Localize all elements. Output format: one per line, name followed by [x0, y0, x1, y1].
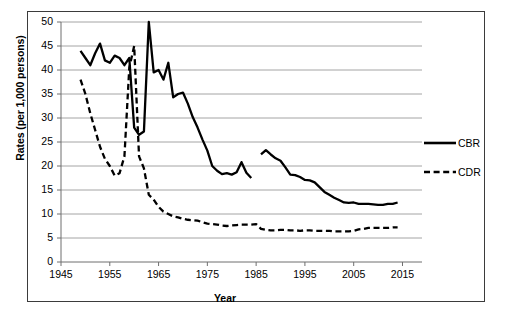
x-tick-1965: 1965 [136, 268, 182, 280]
gridlines [61, 22, 422, 262]
y-tick-30: 30 [23, 111, 53, 123]
y-tick-35: 35 [23, 87, 53, 99]
series-line-cbr [81, 22, 252, 178]
y-tick-50: 50 [23, 15, 53, 27]
x-tick-1945: 1945 [38, 268, 84, 280]
x-tick-2015: 2015 [379, 268, 425, 280]
y-tick-45: 45 [23, 39, 53, 51]
y-tick-40: 40 [23, 63, 53, 75]
x-tick-1995: 1995 [282, 268, 328, 280]
y-tick-15: 15 [23, 183, 53, 195]
x-axis-title: Year [60, 292, 390, 304]
legend-label-cbr: CBR [458, 137, 480, 149]
y-tick-0: 0 [23, 255, 53, 267]
series-line-cbr [261, 150, 398, 205]
chart-figure: Rates (per 1,000 persons) Year 051015202… [0, 0, 515, 321]
tick-marks [57, 22, 402, 266]
y-tick-20: 20 [23, 159, 53, 171]
x-tick-1955: 1955 [87, 268, 133, 280]
legend-markers [424, 143, 456, 172]
x-tick-1985: 1985 [233, 268, 279, 280]
y-tick-5: 5 [23, 231, 53, 243]
y-tick-25: 25 [23, 135, 53, 147]
x-tick-1975: 1975 [184, 268, 230, 280]
x-tick-2005: 2005 [331, 268, 377, 280]
y-tick-10: 10 [23, 207, 53, 219]
data-series-group [81, 22, 398, 231]
legend-label-cdr: CDR [458, 166, 481, 178]
